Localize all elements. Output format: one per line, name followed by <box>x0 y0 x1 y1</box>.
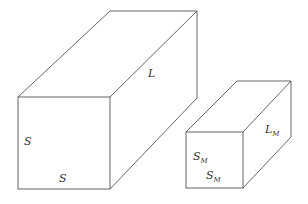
small-box-side-vertical-label: SM <box>193 150 209 165</box>
small-box-top-face <box>186 81 291 132</box>
large-box: L S S <box>18 11 197 189</box>
large-box-side-vertical-label: S <box>24 135 32 148</box>
box-diagram: L S S LM SM SM <box>0 0 308 204</box>
large-box-side-horizontal-label: S <box>59 172 67 185</box>
large-box-side-face <box>110 11 197 189</box>
small-box-side-horizontal-label: SM <box>206 169 222 184</box>
large-box-length-label: L <box>147 67 155 80</box>
small-box-length-label: LM <box>264 123 280 138</box>
large-box-top-face <box>18 11 197 97</box>
small-box: LM SM SM <box>186 81 291 188</box>
